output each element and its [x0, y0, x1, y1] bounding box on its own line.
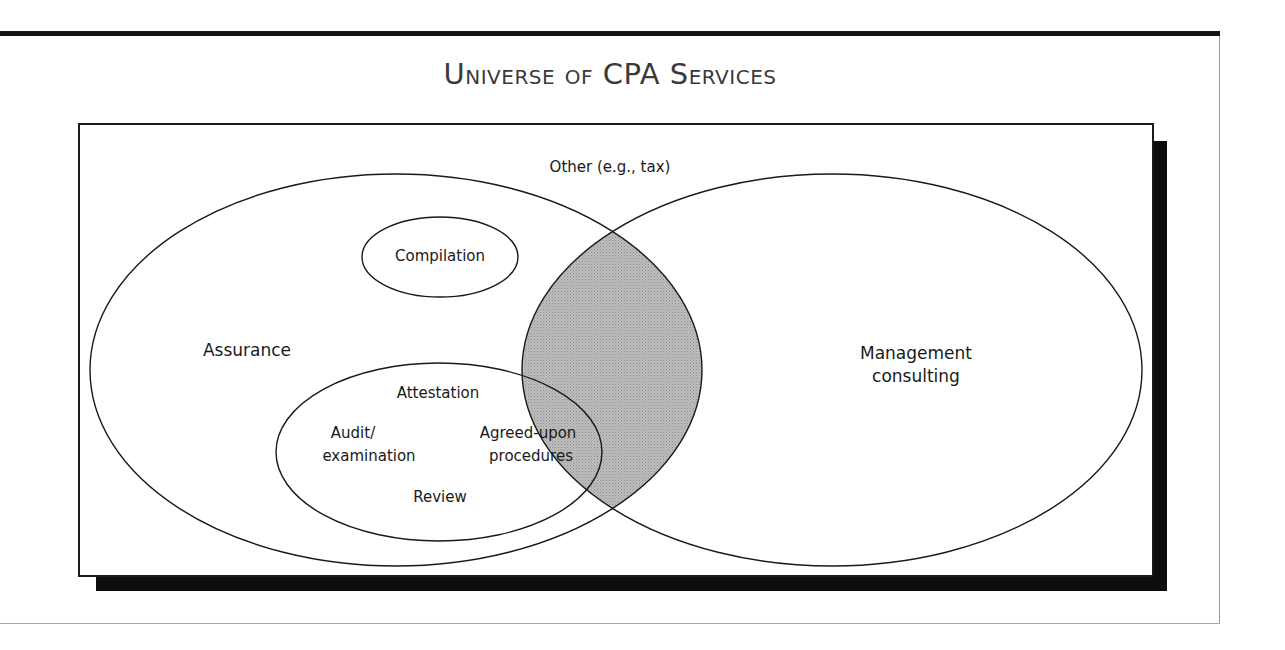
venn-diagram — [0, 0, 1285, 650]
assurance-label: Assurance — [203, 340, 291, 360]
review-label: Review — [413, 488, 467, 506]
other-services-label: Other (e.g., tax) — [550, 158, 671, 176]
agreed-upon-label-line2: procedures — [489, 447, 573, 465]
audit-label-line2: examination — [322, 447, 415, 465]
management-consulting-label-line2: consulting — [872, 366, 960, 386]
attestation-label: Attestation — [397, 384, 480, 402]
management-consulting-label-line1: Management — [860, 343, 972, 363]
agreed-upon-label-line1: Agreed-upon — [480, 424, 577, 442]
audit-label-line1: Audit/ — [331, 424, 375, 442]
compilation-label: Compilation — [395, 247, 485, 265]
